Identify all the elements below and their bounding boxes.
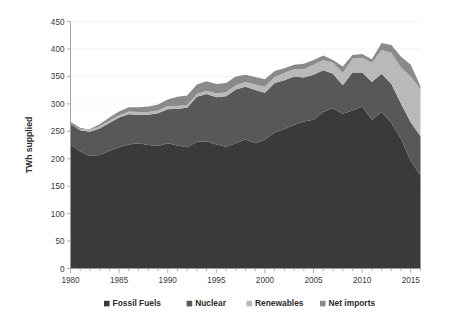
x-tick-label-2010: 2010 bbox=[353, 276, 372, 285]
legend-label-renewables: Renewables bbox=[255, 298, 304, 308]
legend-label-fossil-fuels: Fossil Fuels bbox=[113, 298, 162, 308]
y-tick-label-group: 050100150200250300350400450 bbox=[51, 18, 71, 274]
y-tick-label-200: 200 bbox=[51, 155, 65, 164]
x-tick-label-group: 19801985199019952000200520102015 bbox=[61, 269, 420, 286]
y-tick-label-300: 300 bbox=[51, 100, 65, 109]
y-axis-title-group: TWh supplied bbox=[24, 117, 34, 173]
y-tick-label-350: 350 bbox=[51, 72, 65, 81]
y-axis-title: TWh supplied bbox=[24, 117, 34, 173]
legend-swatch-fossil-fuels bbox=[104, 301, 110, 307]
legend-swatch-net-imports bbox=[320, 301, 326, 307]
y-tick-label-450: 450 bbox=[51, 18, 65, 27]
y-tick-label-0: 0 bbox=[60, 265, 65, 274]
x-tick-label-2005: 2005 bbox=[304, 276, 323, 285]
x-tick-label-2015: 2015 bbox=[402, 276, 421, 285]
legend-swatch-nuclear bbox=[187, 301, 193, 307]
legend-label-net-imports: Net imports bbox=[329, 298, 376, 308]
x-tick-label-1995: 1995 bbox=[207, 276, 226, 285]
legend-swatch-renewables bbox=[246, 301, 252, 307]
x-tick-label-2000: 2000 bbox=[256, 276, 275, 285]
y-tick-label-400: 400 bbox=[51, 45, 65, 54]
legend-label-nuclear: Nuclear bbox=[195, 298, 226, 308]
y-tick-label-250: 250 bbox=[51, 127, 65, 136]
y-tick-label-100: 100 bbox=[51, 210, 65, 219]
stacked-area-chart: 050100150200250300350400450 198019851990… bbox=[0, 0, 455, 326]
x-tick-label-1985: 1985 bbox=[110, 276, 129, 285]
area-series-group bbox=[71, 43, 421, 269]
legend: Fossil FuelsNuclearRenewablesNet imports bbox=[104, 298, 375, 308]
chart-canvas: 050100150200250300350400450 198019851990… bbox=[0, 0, 455, 326]
x-tick-label-1980: 1980 bbox=[61, 276, 80, 285]
y-tick-label-150: 150 bbox=[51, 182, 65, 191]
x-tick-label-1990: 1990 bbox=[159, 276, 178, 285]
y-tick-label-50: 50 bbox=[55, 237, 65, 246]
